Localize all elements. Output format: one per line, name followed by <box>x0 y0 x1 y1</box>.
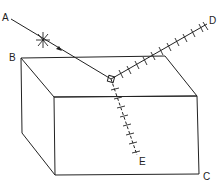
label-a: A <box>2 12 9 23</box>
rectangular-block <box>21 56 199 175</box>
optics-diagram: A B C D E <box>0 0 222 183</box>
label-b: B <box>9 52 16 63</box>
label-e: E <box>139 156 146 167</box>
block-left-face <box>21 58 55 175</box>
reflected-ray <box>111 22 208 79</box>
label-c: C <box>203 171 210 182</box>
label-d: D <box>209 15 216 26</box>
refracted-ray <box>111 79 137 155</box>
incident-ray <box>11 19 111 79</box>
block-front-face <box>54 96 199 175</box>
refracted-ray-ticks <box>111 88 140 153</box>
polarization-star-icon <box>36 32 50 48</box>
